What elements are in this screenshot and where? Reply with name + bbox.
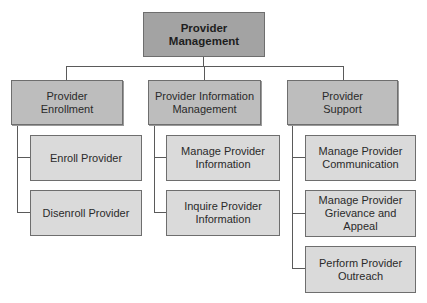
leaf-node-inquire-provider-information: Inquire Provider Information [166,190,280,236]
connector-support-spine [292,124,293,269]
leaf-node-label: Perform Provider Outreach [313,257,408,283]
branch-node-label: Provider Information Management [152,90,257,116]
root-node-label: Provider Management [147,22,261,48]
connector-support-child-1 [292,157,305,158]
connector-info-spine [154,124,155,213]
connector-to-support [343,66,344,80]
connector-root-down [203,56,204,66]
leaf-node-label: Manage Provider Grievance and Appeal [309,194,412,233]
connector-enrollment-child-1 [17,157,30,158]
leaf-node-label: Inquire Provider Information [176,200,271,226]
connector-info-child-1 [154,157,166,158]
leaf-node-manage-provider-grievance-and-appeal: Manage Provider Grievance and Appeal [305,190,416,237]
connector-enrollment-child-2 [17,212,30,213]
leaf-node-disenroll-provider: Disenroll Provider [30,190,142,236]
leaf-node-label: Manage Provider Communication [313,145,408,171]
connector-to-enrollment [66,66,67,80]
leaf-node-perform-provider-outreach: Perform Provider Outreach [305,246,416,293]
branch-node-provider-enrollment: Provider Enrollment [11,80,123,125]
connector-horizontal-bus [66,66,344,67]
leaf-node-label: Enroll Provider [50,152,122,165]
connector-to-info-mgmt [204,66,205,80]
connector-support-child-2 [292,213,305,214]
leaf-node-label: Disenroll Provider [43,207,130,220]
leaf-node-enroll-provider: Enroll Provider [30,135,142,181]
branch-node-label: Provider Support [313,90,373,116]
connector-support-child-3 [292,268,305,269]
leaf-node-label: Manage Provider Information [176,145,271,171]
branch-node-label: Provider Enrollment [32,90,102,116]
connector-enrollment-spine [17,124,18,213]
branch-node-provider-information-management: Provider Information Management [148,80,261,125]
branch-node-provider-support: Provider Support [287,80,398,125]
leaf-node-manage-provider-communication: Manage Provider Communication [305,135,416,181]
leaf-node-manage-provider-information: Manage Provider Information [166,135,280,181]
root-node-provider-management: Provider Management [143,12,265,57]
connector-info-child-2 [154,212,166,213]
